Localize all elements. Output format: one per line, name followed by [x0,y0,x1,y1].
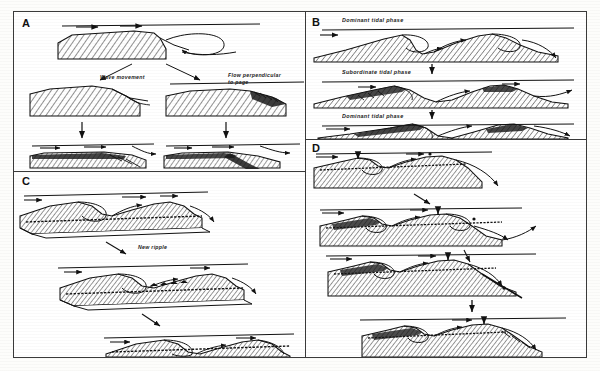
panel-d-stage-4 [360,317,566,357]
panel-a-stage-1 [58,24,260,59]
label-new-ripple: New ripple [138,244,167,250]
panel-c-step-arrow-1 [106,242,126,254]
panel-a-stage-2-left [30,86,150,116]
panel-d-stage-2 [320,207,536,246]
panel-d-stage-1 [314,152,498,188]
panel-b-stage-3 [318,124,574,139]
label-flow-perpendicular: Flow perpendicular [228,72,281,78]
panel-d: D [306,140,586,357]
panel-a-stage-2-right [166,82,304,116]
panel-c: C New ripple [14,172,305,357]
panel-b-stage-2 [314,80,574,108]
label-dominant-tidal-phase-2: Dominant tidal phase [342,113,404,119]
panel-c-stage-2 [58,264,256,310]
panel-a-branch-arrow-right [166,64,200,80]
label-subordinate-tidal-phase: Subordinate tidal phase [342,69,411,75]
panel-a: A Wave movement Flow perpendicular to pa… [14,12,305,171]
label-wave-movement: Wave movement [100,74,145,80]
panel-c-stage-3 [104,334,294,357]
panel-c-step-arrow-2 [142,314,160,326]
panel-a-drawing [14,12,305,171]
panel-d-step-arrow-1 [414,194,430,204]
label-flow-perpendicular-line2: to page [228,79,249,85]
panel-a-stage-3-right [164,144,300,169]
panel-b: B Dominant tidal phase Subordinate tidal… [306,12,586,139]
panel-d-step-arrow-2 [464,250,470,262]
panel-d-stage-3 [326,253,536,298]
panel-letter-d: D [312,142,320,154]
panel-c-stage-1 [20,192,214,238]
panel-a-stage-3-left [30,144,156,168]
panel-b-stage-1 [314,28,574,62]
panel-c-drawing [14,172,305,357]
panel-letter-a: A [22,17,30,29]
label-dominant-tidal-phase-1: Dominant tidal phase [342,17,404,23]
panel-c-new-ripple-marks [150,280,188,286]
panel-d-drawing [306,140,586,357]
figure-canvas: A Wave movement Flow perpendicular to pa… [0,0,600,371]
panel-letter-b: B [312,16,320,28]
panel-b-drawing [306,12,586,139]
panel-letter-c: C [22,175,30,187]
